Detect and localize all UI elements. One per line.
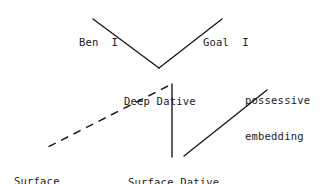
node-label-goal: Goal I — [203, 12, 249, 72]
node-deep-dative-line-1: Deep Dative — [124, 95, 196, 107]
node-surface-subject-line-1: Surface — [14, 175, 60, 184]
node-label-surface-subject: Surface Subject — [14, 151, 60, 184]
node-ben-line-1: Ben I — [79, 36, 118, 48]
node-label-deep-dative: Deep Dative — [124, 71, 196, 131]
node-goal-line-1: Goal I — [203, 36, 249, 48]
node-surface-dative-line-1: Surface Dative — [128, 176, 219, 184]
node-label-ben: Ben I — [79, 12, 118, 72]
node-label-surface-dative: Surface Dative — [128, 152, 219, 184]
diagram-canvas: Ben I Goal I Deep Dative possessive embe… — [0, 0, 325, 184]
node-label-possessive-embedding: possessive embedding — [245, 70, 310, 166]
node-possessive-embedding-line-2: embedding — [245, 130, 310, 142]
node-possessive-embedding-line-1: possessive — [245, 94, 310, 106]
